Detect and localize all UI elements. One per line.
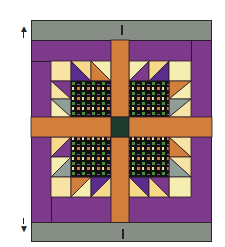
center-marker-bottom	[122, 229, 124, 239]
bottom-border-band	[31, 222, 212, 242]
quilt-blocks	[0, 0, 225, 247]
block-lower-left	[51, 137, 111, 197]
block-upper-right	[129, 61, 191, 117]
block-upper-left	[51, 61, 111, 117]
block-lower-right	[129, 137, 191, 197]
center-square	[111, 117, 129, 137]
